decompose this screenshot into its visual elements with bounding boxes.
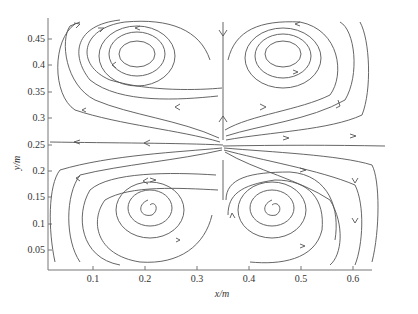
y-tick-label: 0.05: [28, 244, 46, 255]
x-tick-label: 0.2: [139, 273, 152, 284]
y-axis-label: y/m: [11, 156, 22, 171]
y-tick-label: 0.45: [28, 33, 46, 44]
streamline-chart: 0.05 0.1 0.15 0.2 0.25 0.3 0.35 0.4 0.45…: [0, 0, 418, 314]
x-tick-label: 0.4: [243, 273, 256, 284]
x-ticks: 0.1 0.2 0.3 0.4 0.5 0.6: [87, 266, 360, 284]
axes: [48, 18, 372, 270]
x-tick-label: 0.6: [347, 273, 360, 284]
x-tick-label: 0.3: [191, 273, 204, 284]
y-tick-label: 0.1: [33, 218, 46, 229]
y-tick-label: 0.25: [28, 139, 46, 150]
streamlines: [50, 20, 385, 265]
y-tick-label: 0.2: [33, 165, 46, 176]
x-tick-label: 0.1: [87, 273, 100, 284]
x-tick-label: 0.5: [295, 273, 308, 284]
y-tick-label: 0.15: [28, 191, 46, 202]
y-tick-label: 0.4: [33, 59, 46, 70]
x-axis-label: x/m: [214, 288, 229, 299]
y-tick-label: 0.3: [33, 112, 46, 123]
y-tick-label: 0.35: [28, 86, 46, 97]
